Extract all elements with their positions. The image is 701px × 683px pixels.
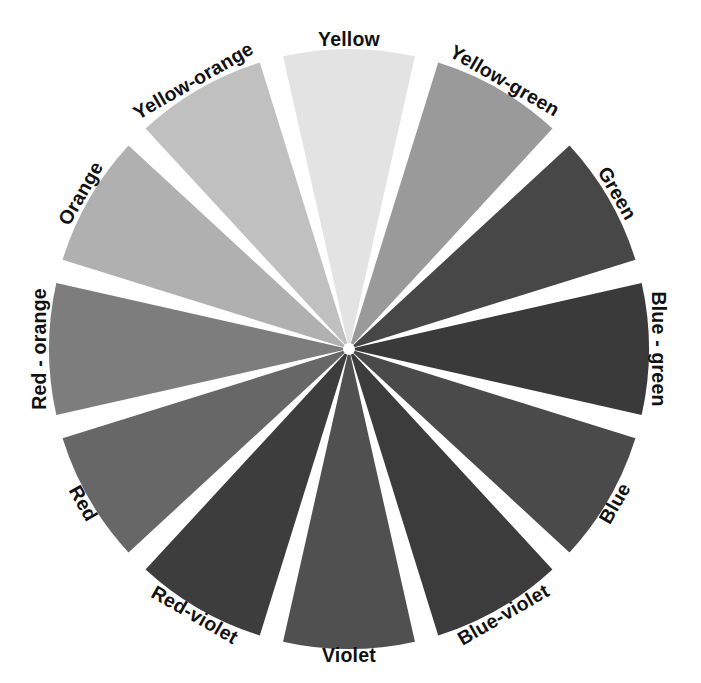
wedge-label-red-orange: Red - orange [28,288,50,410]
wedge-label-yellow: Yellow [318,28,381,50]
color-wheel-svg: YellowYellow-greenGreenBlue - greenBlueB… [0,0,701,683]
color-wheel-figure: YellowYellow-greenGreenBlue - greenBlueB… [0,0,701,683]
wedge-label-blue-green: Blue - green [648,291,670,406]
wedge-label-violet: Violet [322,644,376,666]
